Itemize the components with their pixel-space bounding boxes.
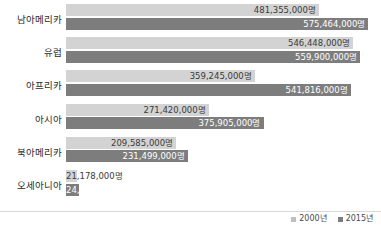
bars-wrapper: 481,355,000명575,464,000명 [66,4,381,30]
legend-item-2015[interactable]: 2015년 [338,215,373,223]
bar-value-label: 375,905,000명 [66,117,264,129]
category-group: 아프리카359,245,000명541,816,000명 [0,70,381,96]
category-label: 유럽 [0,48,62,58]
bars-wrapper: 209,585,000명231,499,000명 [66,137,381,163]
chart-legend: 2000년 2015년 [0,215,381,229]
bar-value-label: 231,499,000명 [66,150,188,162]
bar-row: 21,178,000명 [66,170,381,182]
category-group: 북아메리카209,585,000명231,499,000명 [0,137,381,163]
bar-value-label: 271,420,000명 [66,104,209,116]
legend-label-2000: 2000년 [299,215,326,223]
category-label: 북아메리카 [0,148,62,158]
bars-wrapper: 271,420,000명375,905,000명 [66,104,381,130]
bars-wrapper: 546,448,000명559,900,000명 [66,37,381,63]
bar-row: 359,245,000명 [66,70,381,82]
category-label: 아프리카 [0,81,62,91]
category-label: 남아메리카 [0,15,62,25]
legend-swatch-icon-2015 [338,217,343,222]
category-group: 유럽546,448,000명559,900,000명 [0,37,381,63]
bar-row: 24,892,000명 [66,184,381,196]
bar-value-label: 359,245,000명 [66,70,255,82]
category-group: 남아메리카481,355,000명575,464,000명 [0,4,381,30]
legend-label-2015: 2015년 [346,215,373,223]
category-group: 오세아니아21,178,000명24,892,000명 [0,170,381,196]
bar-row: 271,420,000명 [66,104,381,116]
bar-chart: 남아메리카481,355,000명575,464,000명유럽546,448,0… [0,0,381,233]
bar-value-label: 481,355,000명 [66,4,319,16]
category-group: 아시아271,420,000명375,905,000명 [0,104,381,130]
bar-row: 559,900,000명 [66,51,381,63]
bar-value-label: 546,448,000명 [66,37,353,49]
axis-rule [0,211,381,212]
bar-row: 546,448,000명 [66,37,381,49]
legend-swatch-icon-2000 [291,217,296,222]
bars-wrapper: 21,178,000명24,892,000명 [66,170,381,196]
category-label: 아시아 [0,115,62,125]
legend-item-2000[interactable]: 2000년 [291,215,326,223]
bar-row: 231,499,000명 [66,150,381,162]
bar-value-label: 541,816,000명 [66,84,351,96]
bars-wrapper: 359,245,000명541,816,000명 [66,70,381,96]
bar-value-label: 21,178,000명 [66,170,77,182]
bar-value-label: 559,900,000명 [66,51,360,63]
bar-row: 575,464,000명 [66,18,381,30]
bar-value-label: 209,585,000명 [66,137,176,149]
bar-row: 481,355,000명 [66,4,381,16]
bar-value-label: 24,892,000명 [66,184,79,196]
plot-area: 남아메리카481,355,000명575,464,000명유럽546,448,0… [0,0,381,206]
bar-row: 541,816,000명 [66,84,381,96]
bar-value-label: 575,464,000명 [66,18,368,30]
bar-row: 375,905,000명 [66,117,381,129]
category-label: 오세아니아 [0,181,62,191]
bar-row: 209,585,000명 [66,137,381,149]
